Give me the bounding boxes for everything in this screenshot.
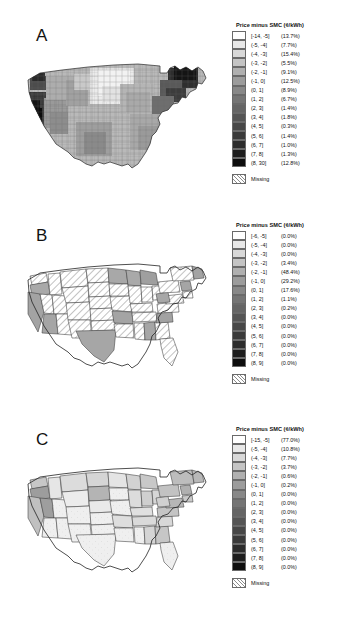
legend-share-label: (6.7%)	[281, 96, 297, 102]
legend-range-label: (-2, -1]	[251, 269, 281, 275]
legend-share-label: (10.8%)	[281, 446, 300, 452]
legend-share-label: (1.1%)	[281, 296, 297, 302]
legend-range-label: (3, 4]	[251, 114, 281, 120]
legend-row: (6, 7](1.0%)	[232, 140, 344, 149]
legend-share-label: (0.2%)	[281, 305, 297, 311]
legend-range-label: (2, 3]	[251, 105, 281, 111]
legend-share-label: (48.4%)	[281, 269, 300, 275]
legend-row: (0, 1](8.9%)	[232, 86, 344, 95]
legend-range-label: (0, 1]	[251, 87, 281, 93]
legend-row: (2, 3](0.2%)	[232, 304, 344, 313]
legend-range-label: (5, 6]	[251, 133, 281, 139]
legend-share-label: (7.7%)	[281, 455, 297, 461]
legend-range-label: (8, 30]	[251, 160, 281, 166]
legend-swatch	[232, 231, 246, 240]
legend-row: (1, 2](6.7%)	[232, 95, 344, 104]
legend-share-label: (0.0%)	[281, 351, 297, 357]
legend-row: (-1, 0](0.2%)	[232, 480, 344, 489]
legend-swatch	[232, 49, 246, 58]
legend-share-label: (17.6%)	[281, 287, 300, 293]
legend-row: (3, 4](0.0%)	[232, 313, 344, 322]
legend-row: (5, 6](0.0%)	[232, 535, 344, 544]
legend-swatch	[232, 535, 246, 544]
missing-label-c: Missing	[251, 580, 269, 586]
legend-swatch	[232, 113, 246, 122]
us-map-svg-a	[10, 40, 215, 205]
legend-row: (-3, -2](5.5%)	[232, 58, 344, 67]
legend-share-label: (0.0%)	[281, 242, 297, 248]
legend-swatch	[232, 76, 246, 85]
legend-swatch	[232, 562, 246, 571]
legend-row: (0, 1](0.0%)	[232, 490, 344, 499]
legend-swatch	[232, 140, 246, 149]
legend-swatch	[232, 453, 246, 462]
legend-range-label: (4, 5]	[251, 323, 281, 329]
map-state-choropleth-c	[10, 444, 215, 609]
legend-range-label: (-4, -3]	[251, 455, 281, 461]
legend-row: (2, 3](1.4%)	[232, 104, 344, 113]
legend-swatch	[232, 544, 246, 553]
legend-swatch	[232, 295, 246, 304]
legend-range-label: (1, 2]	[251, 500, 281, 506]
legend-swatch	[232, 149, 246, 158]
legend-range-label: (-2, -1]	[251, 69, 281, 75]
legend-range-label: (-5, -4]	[251, 42, 281, 48]
state-shapes-b	[28, 266, 204, 366]
legend-rows-a: [-14, -5](13.7%)(-5, -4](7.7%)(-4, -3](1…	[232, 31, 344, 167]
panel-b: B	[0, 214, 346, 414]
legend-row: (0, 1](17.6%)	[232, 286, 344, 295]
legend-share-label: (1.4%)	[281, 105, 297, 111]
legend-share-label: (1.4%)	[281, 133, 297, 139]
legend-row: (8, 9](0.0%)	[232, 562, 344, 571]
legend-range-label: (3, 4]	[251, 314, 281, 320]
legend-range-label: (-3, -2]	[251, 60, 281, 66]
legend-swatch	[232, 340, 246, 349]
legend-range-label: (-4, -3]	[251, 251, 281, 257]
legend-swatch	[232, 104, 246, 113]
missing-label-b: Missing	[251, 376, 269, 382]
legend-range-label: (7, 8]	[251, 151, 281, 157]
legend-row: (4, 5](0.0%)	[232, 526, 344, 535]
legend-range-label: (7, 8]	[251, 351, 281, 357]
legend-row: (-4, -3](7.7%)	[232, 453, 344, 462]
legend-swatch	[232, 286, 246, 295]
legend-rows-b: [-6, -5](0.0%)(-5, -4](0.0%)(-4, -3](0.0…	[232, 231, 344, 367]
legend-share-label: (12.5%)	[281, 78, 300, 84]
legend-swatch	[232, 313, 246, 322]
legend-range-label: (-3, -2]	[251, 464, 281, 470]
legend-row: (1, 2](0.0%)	[232, 499, 344, 508]
legend-title-c: Price minus SMC (¢/kWh)	[236, 426, 344, 432]
legend-range-label: (2, 3]	[251, 305, 281, 311]
legend-c: Price minus SMC (¢/kWh) [-15, -5](77.0%)…	[232, 426, 344, 588]
legend-share-label: (5.5%)	[281, 60, 297, 66]
legend-swatch	[232, 67, 246, 76]
legend-swatch	[232, 258, 246, 267]
legend-row: (6, 7](0.0%)	[232, 544, 344, 553]
legend-rows-c: [-15, -5](77.0%)(-5, -4](10.8%)(-4, -3](…	[232, 435, 344, 571]
legend-range-label: (-1, 0]	[251, 482, 281, 488]
legend-row: (1, 2](1.1%)	[232, 295, 344, 304]
legend-swatch	[232, 86, 246, 95]
legend-range-label: (0, 1]	[251, 491, 281, 497]
legend-range-label: [-14, -5]	[251, 33, 281, 39]
legend-share-label: (1.3%)	[281, 151, 297, 157]
legend-share-label: (0.0%)	[281, 527, 297, 533]
legend-swatch	[232, 276, 246, 285]
legend-share-label: (0.0%)	[281, 564, 297, 570]
legend-share-label: (0.0%)	[281, 314, 297, 320]
legend-share-label: (9.1%)	[281, 69, 297, 75]
legend-row: [-6, -5](0.0%)	[232, 231, 344, 240]
missing-swatch-icon	[232, 374, 246, 383]
panel-c: C	[0, 418, 346, 618]
legend-share-label: (77.0%)	[281, 437, 300, 443]
legend-range-label: (2, 3]	[251, 509, 281, 515]
legend-range-label: (5, 6]	[251, 333, 281, 339]
legend-share-label: (0.0%)	[281, 360, 297, 366]
legend-share-label: (0.0%)	[281, 233, 297, 239]
legend-row: (7, 8](1.3%)	[232, 149, 344, 158]
legend-swatch	[232, 480, 246, 489]
legend-range-label: (-4, -3]	[251, 51, 281, 57]
legend-swatch	[232, 131, 246, 140]
legend-row: (4, 5](0.0%)	[232, 322, 344, 331]
legend-swatch	[232, 508, 246, 517]
